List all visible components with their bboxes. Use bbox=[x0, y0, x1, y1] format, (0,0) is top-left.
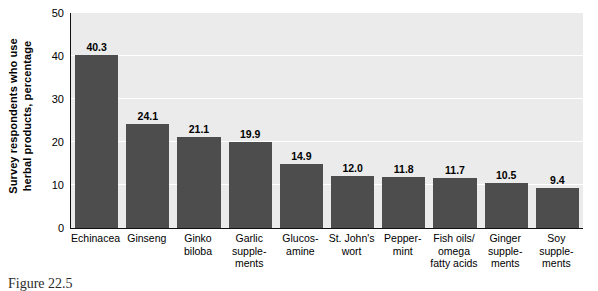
y-axis-title-line-2: herbal products, percentage bbox=[20, 38, 34, 193]
bar bbox=[536, 188, 579, 228]
x-axis-category-label-line: supple- bbox=[480, 245, 531, 258]
bar bbox=[331, 176, 374, 228]
figure-caption: Figure 22.5 bbox=[8, 276, 568, 291]
bar-group: 12.0 bbox=[327, 13, 378, 228]
x-axis-category-label-line: wort bbox=[326, 245, 377, 258]
bar-group: 9.4 bbox=[532, 13, 583, 228]
bar-group: 11.7 bbox=[429, 13, 480, 228]
y-tick-label-40: 40 bbox=[52, 51, 64, 62]
y-tick-label-20: 20 bbox=[52, 137, 64, 148]
x-axis-category-label-line: Soy bbox=[531, 232, 582, 245]
x-axis-category-label-line: Pepper- bbox=[377, 232, 428, 245]
x-axis-category-label: Pepper-mint bbox=[377, 232, 428, 257]
y-axis-title-line-1: Survey respondents who use bbox=[6, 38, 20, 193]
bar-value-label: 24.1 bbox=[122, 111, 173, 122]
x-axis-category-label: Fish oils/omegafatty acids bbox=[428, 232, 479, 270]
x-axis-category-label-line: fatty acids bbox=[428, 257, 479, 270]
x-axis-category-label-line: biloba bbox=[172, 245, 223, 258]
x-axis-category-label: Echinacea bbox=[70, 232, 121, 245]
bar bbox=[177, 137, 220, 228]
x-axis-category-label-line: Ginger bbox=[480, 232, 531, 245]
x-axis-category-labels: EchinaceaGinsengGinkobilobaGarlicsupple-… bbox=[70, 232, 582, 278]
bar-value-label: 9.4 bbox=[532, 175, 583, 186]
x-axis-category-label-line: amine bbox=[275, 245, 326, 258]
bar-group: 19.9 bbox=[225, 13, 276, 228]
x-axis-category-label-line: mint bbox=[377, 245, 428, 258]
bar bbox=[382, 177, 425, 228]
bar-value-label: 12.0 bbox=[327, 163, 378, 174]
x-axis-category-label-line: supple- bbox=[224, 245, 275, 258]
x-axis-category-label-line: omega bbox=[428, 245, 479, 258]
bar bbox=[280, 164, 323, 228]
x-axis-category-label-line: supple- bbox=[531, 245, 582, 258]
bar bbox=[229, 142, 272, 228]
x-axis-category-label: St. John'swort bbox=[326, 232, 377, 257]
bar-group: 21.1 bbox=[173, 13, 224, 228]
x-axis-category-label-line: ments bbox=[224, 257, 275, 270]
y-axis-tick-labels: 50 40 30 20 10 0 bbox=[38, 0, 68, 240]
bar-group: 10.5 bbox=[481, 13, 532, 228]
x-axis-category-label-line: Ginko bbox=[172, 232, 223, 245]
bar bbox=[485, 183, 528, 228]
bar-group: 40.3 bbox=[71, 13, 122, 228]
bar bbox=[75, 55, 118, 228]
bar-value-label: 14.9 bbox=[276, 151, 327, 162]
bar-value-label: 40.3 bbox=[71, 42, 122, 53]
x-axis-category-label: Soysupple-ments bbox=[531, 232, 582, 270]
bar bbox=[126, 124, 169, 228]
bar-group: 24.1 bbox=[122, 13, 173, 228]
bar bbox=[433, 178, 476, 228]
plot-area-frame: 40.324.121.119.914.912.011.811.710.59.4 bbox=[70, 13, 583, 229]
bar-value-label: 11.8 bbox=[378, 164, 429, 175]
y-tick-label-10: 10 bbox=[52, 180, 64, 191]
x-axis-category-label: Garlicsupple-ments bbox=[224, 232, 275, 270]
x-axis-category-label-line: ments bbox=[531, 257, 582, 270]
x-axis-category-label-line: Ginseng bbox=[121, 232, 172, 245]
bar-group: 14.9 bbox=[276, 13, 327, 228]
bars-layer: 40.324.121.119.914.912.011.811.710.59.4 bbox=[71, 13, 583, 228]
x-axis-category-label-line: ments bbox=[480, 257, 531, 270]
y-axis-title: Survey respondents who use herbal produc… bbox=[0, 0, 40, 232]
x-axis-category-label: Ginseng bbox=[121, 232, 172, 245]
y-tick-label-0: 0 bbox=[58, 223, 64, 234]
x-axis-category-label-line: Glucos- bbox=[275, 232, 326, 245]
plot-area: 40.324.121.119.914.912.011.811.710.59.4 bbox=[71, 13, 583, 228]
x-axis-category-label-line: Fish oils/ bbox=[428, 232, 479, 245]
bar-value-label: 19.9 bbox=[225, 129, 276, 140]
bar-value-label: 11.7 bbox=[429, 165, 480, 176]
x-axis-category-label-line: St. John's bbox=[326, 232, 377, 245]
bar-value-label: 10.5 bbox=[481, 170, 532, 181]
x-axis-category-label-line: Garlic bbox=[224, 232, 275, 245]
x-axis-category-label: Ginkobiloba bbox=[172, 232, 223, 257]
x-axis-category-label: Gingersupple-ments bbox=[480, 232, 531, 270]
x-axis-category-label-line: Echinacea bbox=[70, 232, 121, 245]
bar-value-label: 21.1 bbox=[173, 124, 224, 135]
y-tick-label-30: 30 bbox=[52, 94, 64, 105]
bar-group: 11.8 bbox=[378, 13, 429, 228]
x-axis-category-label: Glucos-amine bbox=[275, 232, 326, 257]
y-tick-label-50: 50 bbox=[52, 8, 64, 19]
figure-caption-label: Figure 22.5 bbox=[8, 276, 73, 291]
